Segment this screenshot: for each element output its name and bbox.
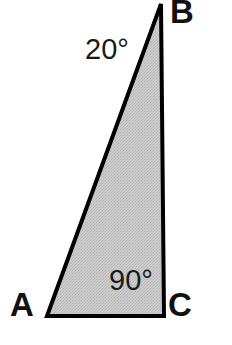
angle-measure-at-c: 90° (109, 266, 153, 295)
vertex-label-a: A (10, 288, 33, 321)
vertex-label-c: C (168, 288, 191, 321)
vertex-label-b: B (170, 0, 193, 28)
angle-measure-at-b: 20° (85, 35, 129, 64)
figure-canvas: A B C 20° 90° (0, 0, 232, 345)
